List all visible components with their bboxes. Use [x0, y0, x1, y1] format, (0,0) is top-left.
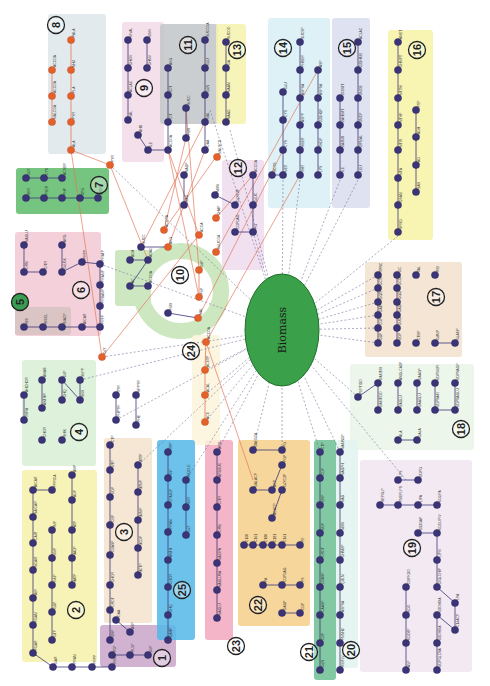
metabolite-label: AMP [73, 464, 77, 472]
metabolite-node[interactable]: PYR [106, 154, 115, 168]
region-badge-14: 14 [275, 40, 292, 57]
metabolite-label: SUCC [142, 234, 146, 244]
metabolite-label: C180 [264, 534, 268, 542]
region-badge-25: 25 [174, 582, 191, 599]
metabolite-node[interactable]: TYR [112, 385, 121, 399]
metabolite-label: FUM [169, 302, 173, 310]
metabolite-node[interactable]: DHAP [212, 205, 221, 222]
metabolite-label: dADP [73, 545, 77, 555]
metabolite-node[interactable]: GLUCOA [212, 234, 221, 256]
metabolite-label: PSER [45, 185, 49, 195]
badge-number: 24 [185, 344, 197, 357]
metabolite-label: UAMTIM [379, 366, 383, 380]
biomass-node[interactable]: Biomass [245, 274, 319, 386]
metabolite-node[interactable]: ACOA [195, 222, 204, 239]
badge-number: 12 [232, 162, 244, 174]
metabolite-label: PHPYR [117, 405, 121, 417]
metabolite-label: MTTH [399, 85, 403, 95]
metabolite-label: MET [284, 165, 288, 172]
region-badge-13: 13 [229, 42, 246, 59]
metabolite-label: CHOR [43, 426, 47, 437]
region-badge-20: 20 [343, 642, 360, 659]
metabolite-label: ASP [131, 621, 135, 629]
metabolite-label: PHP [63, 187, 67, 195]
metabolite-node[interactable]: FUM [182, 127, 191, 141]
metabolite-label: KIMV [148, 28, 152, 37]
metabolite-label: UAAGP [418, 367, 422, 380]
metabolite-node[interactable]: AHCHOR [20, 377, 29, 399]
metabolite-label: AIR [34, 589, 38, 595]
metabolite-label: ACCOA [149, 270, 153, 283]
metabolite-label: MTHF [399, 113, 403, 122]
metabolite-label: GMP [53, 574, 57, 582]
pathway-regions [15, 14, 474, 680]
metabolite-label: GDP [379, 332, 383, 340]
metabolite-label: LPS [399, 470, 403, 477]
metabolite-label: DAGP [283, 600, 287, 610]
metabolite-label: HEPGLP [381, 488, 385, 502]
metabolite-label: HISOL [44, 314, 48, 324]
region-badge-12: 12 [230, 160, 247, 177]
region-badge-21: 21 [301, 644, 318, 661]
metabolite-label: RL5P [131, 643, 135, 652]
metabolite-label: DHMPT [399, 55, 403, 67]
region-16 [388, 30, 433, 240]
metabolite-label: C14ACP [456, 613, 460, 627]
region-badge-5: 5 [12, 294, 29, 311]
metabolite-label: CDP [301, 602, 305, 610]
metabolite-label: dTMP [139, 479, 143, 489]
metabolite-node[interactable]: NADP [180, 162, 189, 179]
metabolite-label: CDPDAG [236, 214, 240, 229]
metabolite-label: dCDP [139, 535, 143, 545]
metabolite-node[interactable]: NAD [180, 194, 189, 208]
metabolite-label: AICAR [34, 476, 38, 487]
metabolite-node[interactable]: HPPYR [132, 380, 141, 399]
metabolite-label: MTRI [399, 139, 403, 147]
metabolite-label: XMP [53, 547, 57, 555]
metabolite-label: PRAN [169, 519, 173, 529]
metabolite-label: DC [398, 267, 402, 272]
metabolite-node[interactable]: OAA [201, 139, 210, 153]
metabolite-label: GLN [321, 659, 325, 667]
metabolite-node[interactable]: F6P [195, 287, 204, 301]
metabolite-label: UMP [111, 629, 115, 637]
metabolite-label: SAICAR [34, 501, 38, 514]
metabolite-label: A5P [407, 660, 411, 667]
metabolite-label: THRA [25, 407, 29, 417]
badge-number: 17 [430, 291, 442, 303]
metabolite-label: OROT [111, 597, 115, 607]
metabolite-label: KDO8P [407, 628, 411, 640]
metabolite-label: dUMP [139, 507, 143, 517]
metabolite-label: ASPSA [319, 83, 323, 95]
metabolite-label: NAD [341, 494, 345, 502]
metabolite-label: KDOLIPIV [438, 514, 442, 530]
metabolite-label: PRATP [101, 249, 105, 261]
metabolite-label: 23DHDP [319, 108, 323, 122]
metabolite-label: SUCC [187, 95, 191, 105]
metabolite-label: 2AHBUT [341, 109, 345, 122]
metabolite-node[interactable]: NMN [211, 184, 220, 199]
metabolite-label: THR [301, 164, 305, 172]
metabolite-label: IGP [169, 468, 173, 475]
metabolite-node[interactable]: ACCOA [160, 214, 169, 233]
metabolite-node[interactable]: GLY [98, 347, 107, 361]
metabolite-label: PEPTIDO [359, 379, 363, 394]
metabolite-label: PRAMP [101, 269, 105, 282]
metabolite-node[interactable]: MALSCD [213, 139, 222, 160]
metabolite-node[interactable]: PHE [132, 414, 141, 428]
metabolite-label: ACETP [206, 355, 210, 367]
metabolite-label: CBASP [321, 572, 325, 584]
region-badge-16: 16 [409, 42, 426, 59]
metabolite-label: UDP [111, 486, 115, 494]
metabolite-label: NMN [341, 522, 345, 530]
metabolite-label: NAAN [227, 82, 231, 92]
metabolite-node[interactable]: PHPYR [112, 405, 121, 424]
badge-number: 25 [176, 584, 188, 596]
metabolite-node[interactable]: ACCOA [164, 134, 173, 153]
metabolite-label: IMACP [63, 313, 67, 324]
metabolite-node[interactable]: FUM [164, 302, 173, 316]
metabolite-label: ACCOA [53, 54, 57, 67]
region-13 [216, 24, 246, 124]
metabolite-label: DHQ [169, 604, 173, 612]
metabolite-label: UAAGLU [418, 393, 422, 407]
